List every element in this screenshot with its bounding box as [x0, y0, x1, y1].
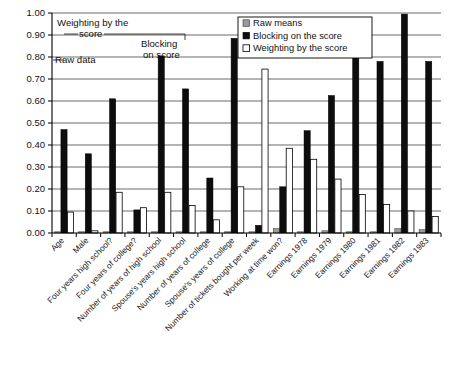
bar	[158, 56, 164, 233]
bar	[426, 61, 432, 233]
bar	[408, 211, 414, 233]
x-axis-labels: AgeMaleFour years high school?Four years…	[45, 235, 431, 333]
bar	[377, 61, 383, 233]
chart-annotations: Raw data Weighting by the score Blocking…	[53, 17, 185, 65]
bar-chart-figure: 0.000.100.200.300.400.500.600.700.800.90…	[0, 0, 450, 365]
annotation-blocking-line1: Blocking	[141, 38, 177, 49]
bar	[182, 89, 188, 233]
bar	[134, 210, 140, 233]
annotation-raw-data: Raw data	[55, 54, 96, 65]
bar	[286, 148, 292, 233]
y-tick-label: 0.60	[27, 95, 46, 106]
y-tick-label: 0.90	[27, 29, 46, 40]
annotation-blocking-line2: on score	[143, 49, 180, 60]
legend-label: Blocking on the score	[253, 31, 342, 41]
bar	[189, 206, 195, 234]
x-tick-label: Male	[71, 235, 91, 255]
bar	[395, 229, 401, 233]
bar	[213, 220, 219, 233]
bar	[304, 131, 310, 233]
legend-swatch	[243, 32, 250, 39]
bar	[85, 154, 91, 233]
x-tick-label: Age	[49, 235, 67, 253]
bar	[335, 179, 341, 233]
legend-label: Weighting by the score	[253, 43, 347, 53]
annotation-weighting-line2: score	[79, 28, 102, 39]
bar	[116, 192, 122, 233]
legend-label: Raw means	[253, 18, 302, 28]
bar	[110, 99, 116, 233]
y-tick-label: 0.70	[27, 73, 46, 84]
bar	[280, 187, 286, 233]
y-tick-label: 0.50	[27, 117, 46, 128]
bar	[207, 178, 213, 233]
y-tick-label: 0.80	[27, 51, 46, 62]
legend-swatch	[243, 45, 250, 52]
y-tick-label: 0.10	[27, 205, 46, 216]
bar	[238, 187, 244, 233]
x-axis-ticks	[52, 233, 441, 237]
legend-swatch	[243, 20, 250, 27]
y-tick-label: 0.00	[27, 227, 46, 238]
y-axis-ticks: 0.000.100.200.300.400.500.600.700.800.90…	[27, 7, 53, 238]
bar	[401, 14, 407, 233]
bar	[67, 212, 73, 233]
bar	[231, 38, 237, 233]
bar	[165, 192, 171, 233]
bar	[359, 195, 365, 234]
bar	[383, 204, 389, 233]
bar	[140, 208, 146, 233]
bar	[273, 229, 279, 233]
y-tick-label: 1.00	[27, 7, 46, 18]
bar	[262, 69, 268, 233]
bar	[353, 57, 359, 233]
y-tick-label: 0.30	[27, 161, 46, 172]
y-tick-label: 0.20	[27, 183, 46, 194]
bar	[432, 217, 438, 234]
chart-canvas: 0.000.100.200.300.400.500.600.700.800.90…	[0, 0, 450, 365]
y-tick-label: 0.40	[27, 139, 46, 150]
bar	[328, 96, 334, 234]
chart-legend: Raw meansBlocking on the scoreWeighting …	[238, 17, 372, 58]
bar	[61, 130, 67, 233]
bar	[311, 159, 317, 233]
bar	[255, 225, 261, 233]
annotation-weighting-line1: Weighting by the	[57, 17, 128, 28]
